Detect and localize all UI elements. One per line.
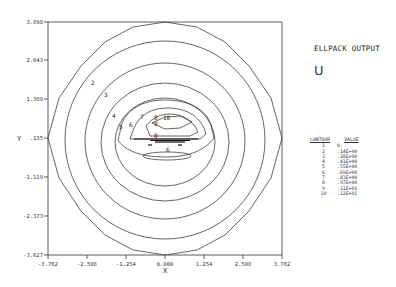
svg-text:1.254: 1.254 [196, 261, 213, 267]
legend-header-value: VALUE [344, 137, 358, 142]
y-axis-ticks [44, 22, 48, 255]
svg-text:-2.373: -2.373 [23, 213, 43, 219]
svg-text:4: 4 [112, 112, 116, 119]
contour-dense-band [134, 139, 198, 145]
svg-text:3.762: 3.762 [274, 261, 291, 267]
svg-text:-2.508: -2.508 [77, 261, 97, 267]
contour-legend: CONTOUR VALUE 10. 2.14E+00 3.28E+00 4.41… [310, 137, 367, 196]
svg-text:.135: .135 [30, 135, 43, 141]
svg-text:5: 5 [119, 123, 123, 130]
y-axis-label: Y [17, 135, 22, 143]
svg-text:2.643: 2.643 [26, 57, 43, 63]
svg-text:2.508: 2.508 [235, 261, 252, 267]
svg-text:-1.119: -1.119 [23, 174, 43, 180]
legend-header: CONTOUR VALUE [310, 137, 367, 142]
svg-text:-1.254: -1.254 [116, 261, 137, 267]
variable-name: U [314, 63, 324, 78]
x-axis-ticks [48, 255, 282, 259]
x-axis-label: X [163, 267, 168, 275]
legend-row: 10.12E+01 [310, 191, 367, 196]
svg-text:6: 6 [166, 146, 170, 153]
svg-text:6: 6 [129, 121, 133, 128]
svg-text:9: 9 [154, 120, 158, 127]
legend-value: .12E+01 [337, 191, 367, 196]
y-axis-tick-labels: 3.898 2.643 1.389 .135 -1.119 -2.373 -3.… [23, 19, 43, 258]
legend-contour: 10 [310, 191, 337, 196]
svg-text:7: 7 [140, 113, 144, 120]
svg-text:-3.627: -3.627 [23, 252, 43, 258]
chart-title: ELLPACK OUTPUT [314, 44, 380, 53]
svg-text:10: 10 [163, 114, 171, 121]
svg-text:2: 2 [91, 79, 95, 86]
legend-header-contour: CONTOUR [310, 137, 330, 142]
svg-text:8: 8 [154, 132, 158, 139]
svg-text:3: 3 [104, 91, 108, 98]
svg-text:3.898: 3.898 [26, 19, 43, 25]
svg-text:1.389: 1.389 [26, 96, 43, 102]
svg-text:-3.762: -3.762 [38, 261, 58, 267]
